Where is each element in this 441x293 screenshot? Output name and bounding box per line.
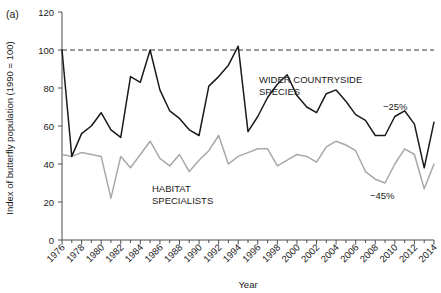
figure-panel-a: (a) Index of butterfly population (1990 … — [0, 0, 441, 293]
x-tick-label: 1976 — [44, 242, 67, 265]
chart-annotation: WIDER COUNTRYSIDE — [259, 74, 362, 85]
y-tick-label: 60 — [43, 121, 54, 132]
y-tick-label: 20 — [43, 197, 54, 208]
chart-annotation: SPECIALISTS — [152, 195, 213, 206]
x-tick-label: 1990 — [181, 242, 204, 265]
x-tick-label: 1984 — [123, 242, 146, 265]
x-tick-label: 1982 — [103, 242, 126, 265]
x-tick-label: 1998 — [260, 242, 283, 265]
chart-annotation: −25% — [383, 101, 408, 112]
x-tick-label: 2012 — [397, 242, 420, 265]
x-tick-label: 1980 — [83, 242, 106, 265]
x-tick-label: 2008 — [357, 242, 380, 265]
x-tick-label: 1988 — [162, 242, 185, 265]
x-tick-label: 1996 — [240, 242, 263, 265]
x-tick-label: 1986 — [142, 242, 165, 265]
x-tick-label: 2010 — [377, 242, 400, 265]
x-tick-label: 2014 — [416, 242, 439, 265]
y-tick-label: 80 — [43, 83, 54, 94]
x-tick-label: 2000 — [279, 242, 302, 265]
x-axis-ticks: 1976197819801982198419861988199019921994… — [44, 242, 439, 265]
y-axis-title: Index of butterfly population (1990 = 10… — [4, 41, 15, 215]
chart-annotations: WIDER COUNTRYSIDESPECIESHABITATSPECIALIS… — [152, 74, 408, 206]
y-axis-ticks: 020406080100120 — [38, 7, 62, 246]
chart-annotation: SPECIES — [259, 86, 300, 97]
butterfly-index-line-chart: (a) Index of butterfly population (1990 … — [0, 0, 441, 293]
y-tick-label: 40 — [43, 159, 54, 170]
x-tick-label: 2006 — [338, 242, 361, 265]
chart-annotation: HABITAT — [152, 183, 191, 194]
x-tick-label: 2004 — [318, 242, 341, 265]
panel-label: (a) — [6, 8, 19, 20]
chart-annotation: −45% — [370, 190, 395, 201]
y-tick-label: 120 — [38, 7, 54, 18]
y-tick-label: 100 — [38, 45, 54, 56]
x-axis-title: Year — [238, 279, 257, 290]
y-tick-label: 0 — [49, 235, 54, 246]
x-tick-label: 1994 — [220, 242, 243, 265]
x-tick-label: 1992 — [201, 242, 224, 265]
x-tick-label: 2002 — [299, 242, 322, 265]
series-line-habitat-specialists — [62, 136, 434, 199]
series-line-wider-countryside-species — [62, 46, 434, 168]
x-tick-label: 1978 — [64, 242, 87, 265]
